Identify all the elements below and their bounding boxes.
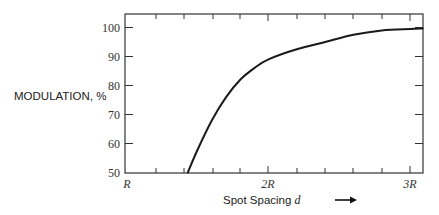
x-tick-labels: R 2R 3R	[122, 177, 417, 191]
arrow-right-icon	[335, 197, 357, 204]
modulation-curve	[188, 28, 423, 172]
y-tick-label: 50	[108, 166, 120, 180]
y-tick-label: 80	[108, 79, 120, 93]
x-axis-variable: d	[295, 193, 302, 207]
plot-frame	[125, 14, 423, 173]
y-tick-label: 100	[102, 21, 120, 35]
x-ticks	[156, 14, 410, 173]
x-tick-label: 3R	[402, 177, 417, 191]
chart: 100 90 80 70 60 50 R 2R 3R MODULATION, %…	[0, 0, 439, 215]
y-tick-label: 60	[108, 137, 120, 151]
x-axis-title-text: Spot Spacing	[223, 194, 295, 206]
y-axis-title: MODULATION, %	[14, 90, 106, 102]
x-tick-label: R	[122, 177, 131, 191]
y-ticks	[125, 28, 423, 144]
x-tick-label: 2R	[261, 177, 275, 191]
y-tick-label: 90	[108, 50, 120, 64]
x-axis-title: Spot Spacing d	[223, 193, 302, 207]
y-tick-label: 70	[108, 108, 120, 122]
